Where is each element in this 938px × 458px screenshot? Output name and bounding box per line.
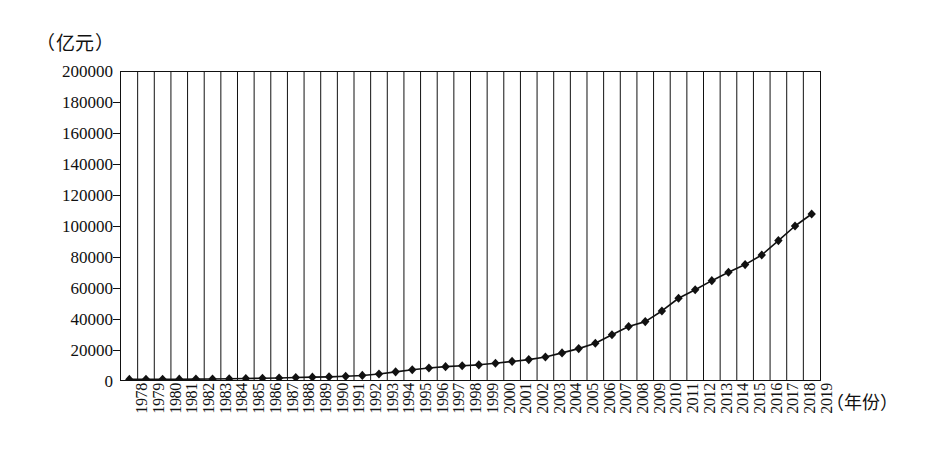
- x-axis-tick-label: 1991: [351, 383, 367, 445]
- x-axis-tick-label: 1984: [234, 383, 250, 445]
- x-axis-tick-label: 2000: [502, 383, 518, 445]
- x-axis-tick-label: 1993: [385, 383, 401, 445]
- x-axis-tick-label: 1995: [418, 383, 434, 445]
- x-axis-tick-label: 2005: [585, 383, 601, 445]
- x-axis-tick-label: 1983: [218, 383, 234, 445]
- x-axis-tick-label: 1996: [435, 383, 451, 445]
- x-axis-tick-label: 2002: [535, 383, 551, 445]
- x-axis-tick-label: 1988: [301, 383, 317, 445]
- y-axis-tick-mark: [113, 350, 120, 351]
- y-axis-tick-mark: [113, 133, 120, 134]
- x-axis-tick-label: 1985: [251, 383, 267, 445]
- y-axis-tick-label: 20000: [71, 342, 114, 359]
- y-axis-tick-label: 160000: [62, 125, 113, 142]
- x-axis-tick-label: 2009: [652, 383, 668, 445]
- x-axis-tick-label: 2017: [785, 383, 801, 445]
- x-axis-tick-label: 2004: [568, 383, 584, 445]
- x-axis-tick-label: 2006: [602, 383, 618, 445]
- y-axis-tick-mark: [113, 164, 120, 165]
- x-axis-tick-label: 2001: [518, 383, 534, 445]
- x-axis-tick-label: 1994: [401, 383, 417, 445]
- y-axis-tick-label: 140000: [62, 156, 113, 173]
- y-axis-tick-mark: [113, 319, 120, 320]
- y-axis-tick-label: 80000: [71, 249, 114, 266]
- y-axis-unit-label: （亿元）: [36, 28, 114, 55]
- y-axis-tick-label-group: 2000001800001600001400001200001000008000…: [0, 71, 113, 381]
- x-axis-tick-label-group: 1978197919801981198219831984198519861987…: [120, 383, 821, 445]
- y-axis-tick-label: 40000: [71, 311, 114, 328]
- x-axis-tick-label: 1999: [485, 383, 501, 445]
- y-axis-tick-label: 60000: [71, 280, 114, 297]
- y-axis-tick-mark: [113, 102, 120, 103]
- x-axis-tick-label: 2013: [719, 383, 735, 445]
- y-axis-tick-label: 180000: [62, 94, 113, 111]
- x-axis-tick-label: 1997: [451, 383, 467, 445]
- x-axis-tick-label: 2003: [552, 383, 568, 445]
- y-axis-tick-mark: [113, 195, 120, 196]
- x-axis-tick-label: 1978: [134, 383, 150, 445]
- x-axis-tick-label: 2010: [668, 383, 684, 445]
- x-axis-tick-label: 1992: [368, 383, 384, 445]
- x-axis-tick-label: 1990: [335, 383, 351, 445]
- x-axis-tick-label: 1980: [168, 383, 184, 445]
- x-axis-tick-label: 2007: [618, 383, 634, 445]
- x-axis-tick-label: 1987: [285, 383, 301, 445]
- x-axis-tick-label: 2015: [752, 383, 768, 445]
- x-axis-tick-label: 2014: [735, 383, 751, 445]
- y-axis-tick-mark: [113, 288, 120, 289]
- chart-figure: （亿元） 20000018000016000014000012000010000…: [0, 0, 938, 458]
- x-axis-tick-label: 1981: [184, 383, 200, 445]
- y-axis-tick-mark: [113, 226, 120, 227]
- x-axis-tick-label: 2012: [702, 383, 718, 445]
- y-axis-tick-label: 100000: [62, 218, 113, 235]
- x-axis-tick-label: 2008: [635, 383, 651, 445]
- x-axis-tick-label: 2018: [802, 383, 818, 445]
- y-axis-tick-label: 120000: [62, 187, 113, 204]
- x-axis-title: （年份）: [826, 388, 898, 414]
- x-axis-tick-label: 1998: [468, 383, 484, 445]
- y-axis-tick-label: 0: [105, 373, 114, 390]
- gdp-line-series: [121, 72, 820, 380]
- plot-area: [120, 71, 821, 381]
- x-axis-tick-label: 1982: [201, 383, 217, 445]
- y-axis-tick-label: 200000: [62, 63, 113, 80]
- x-axis-tick-label: 1986: [268, 383, 284, 445]
- y-axis-tick-mark: [113, 257, 120, 258]
- x-axis-tick-label: 1989: [318, 383, 334, 445]
- x-axis-tick-label: 2011: [685, 383, 701, 445]
- x-axis-tick-label: 1979: [151, 383, 167, 445]
- x-axis-tick-label: 2016: [769, 383, 785, 445]
